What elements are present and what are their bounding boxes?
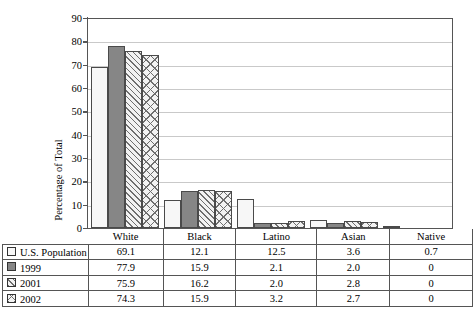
table-cell: 2.8 bbox=[317, 275, 390, 291]
y-axis-title: Percentage of Total bbox=[46, 50, 60, 180]
legend-row-2[interactable]: 2001 bbox=[3, 275, 89, 291]
y-axis-tick-label: 30 bbox=[60, 153, 82, 164]
bar-group bbox=[310, 0, 378, 228]
legend-swatch-icon bbox=[7, 262, 16, 271]
bar bbox=[215, 191, 232, 228]
y-axis-tick-label: 20 bbox=[60, 176, 82, 187]
y-axis-tick bbox=[83, 65, 88, 66]
table-cell: 15.9 bbox=[163, 291, 236, 307]
y-axis-tick bbox=[83, 228, 88, 229]
table-cell: 2.0 bbox=[317, 260, 390, 276]
bar bbox=[310, 220, 327, 228]
legend-row-1[interactable]: 1999 bbox=[3, 260, 89, 276]
bar bbox=[237, 199, 254, 228]
y-axis-tick-label: 10 bbox=[60, 199, 82, 210]
bar bbox=[108, 46, 125, 228]
column-header-black: Black bbox=[163, 229, 236, 244]
y-axis-tick bbox=[83, 158, 88, 159]
legend-label: U.S. Population bbox=[20, 247, 87, 258]
legend-label: 2001 bbox=[20, 278, 41, 289]
y-axis-tick bbox=[83, 18, 88, 19]
y-axis-tick-label: 40 bbox=[60, 129, 82, 140]
y-axis-tick-label: 80 bbox=[60, 36, 82, 47]
table-cell: 75.9 bbox=[89, 275, 164, 291]
bar bbox=[383, 226, 400, 228]
legend-row-0[interactable]: U.S. Population bbox=[3, 244, 89, 260]
y-axis-tick-label: 70 bbox=[60, 59, 82, 70]
y-axis-tick-label: 50 bbox=[60, 106, 82, 117]
bar-group bbox=[237, 0, 305, 228]
table-cell: 0 bbox=[390, 260, 473, 276]
column-header-latino: Latino bbox=[236, 229, 317, 244]
y-axis-tick bbox=[83, 181, 88, 182]
legend-label: 2002 bbox=[20, 294, 41, 305]
bar bbox=[198, 190, 215, 228]
bar bbox=[288, 221, 305, 228]
bar bbox=[254, 223, 271, 228]
y-axis-tick bbox=[83, 135, 88, 136]
bar bbox=[181, 191, 198, 228]
legend-swatch-icon bbox=[7, 247, 16, 256]
bar bbox=[271, 223, 288, 228]
bar-chart-figure: Percentage of Total WhiteBlackLatinoAsia… bbox=[0, 0, 475, 309]
table-cell: 74.3 bbox=[89, 291, 164, 307]
table-row: 199977.915.92.12.00 bbox=[3, 260, 473, 276]
bar bbox=[164, 200, 181, 228]
table-cell: 0.7 bbox=[390, 244, 473, 260]
legend-label: 1999 bbox=[20, 263, 41, 274]
bar bbox=[327, 223, 344, 228]
bar-group bbox=[383, 0, 451, 228]
table-row: 200274.315.93.22.70 bbox=[3, 291, 473, 307]
bar bbox=[344, 221, 361, 228]
y-axis-tick bbox=[83, 111, 88, 112]
table-row: 200175.916.22.02.80 bbox=[3, 275, 473, 291]
y-axis-tick bbox=[83, 88, 88, 89]
column-header-asian: Asian bbox=[317, 229, 390, 244]
y-axis-line bbox=[87, 17, 88, 229]
table-cell: 15.9 bbox=[163, 260, 236, 276]
bar-group bbox=[164, 0, 232, 228]
table-cell: 12.5 bbox=[236, 244, 317, 260]
table-cell: 3.6 bbox=[317, 244, 390, 260]
legend-swatch-icon bbox=[7, 278, 16, 287]
y-axis-tick-label: 60 bbox=[60, 83, 82, 94]
table-cell: 2.1 bbox=[236, 260, 317, 276]
bar bbox=[142, 55, 159, 228]
table-cell: 2.0 bbox=[236, 275, 317, 291]
bar bbox=[91, 67, 108, 228]
bar-group bbox=[91, 0, 159, 228]
table-cell: 69.1 bbox=[89, 244, 164, 260]
y-axis-tick bbox=[83, 205, 88, 206]
column-header-native: Native bbox=[390, 229, 473, 244]
table-cell: 3.2 bbox=[236, 291, 317, 307]
table-cell: 16.2 bbox=[163, 275, 236, 291]
data-table-body: WhiteBlackLatinoAsianNativeU.S. Populati… bbox=[3, 229, 473, 306]
column-header-white: White bbox=[89, 229, 164, 244]
data-table: WhiteBlackLatinoAsianNativeU.S. Populati… bbox=[2, 229, 473, 307]
legend-row-3[interactable]: 2002 bbox=[3, 291, 89, 307]
bar bbox=[125, 51, 142, 228]
table-cell: 77.9 bbox=[89, 260, 164, 276]
y-axis-tick-label: 0 bbox=[60, 223, 82, 234]
table-cell: 12.1 bbox=[163, 244, 236, 260]
table-row: U.S. Population69.112.112.53.60.7 bbox=[3, 244, 473, 260]
legend-swatch-icon bbox=[7, 294, 16, 303]
bar bbox=[361, 222, 378, 228]
table-cell: 2.7 bbox=[317, 291, 390, 307]
table-cell: 0 bbox=[390, 275, 473, 291]
table-cell: 0 bbox=[390, 291, 473, 307]
y-axis-tick-label: 90 bbox=[60, 13, 82, 24]
y-axis-tick bbox=[83, 41, 88, 42]
